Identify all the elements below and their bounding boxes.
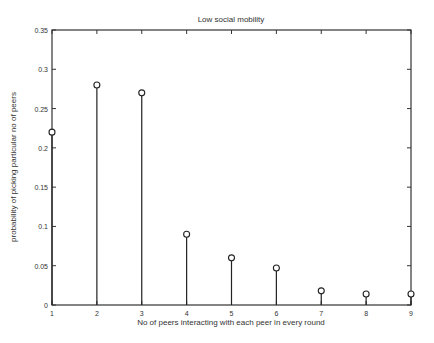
stem-marker xyxy=(94,82,100,88)
stem-marker xyxy=(184,231,190,237)
x-tick-label: 2 xyxy=(95,310,99,317)
x-tick-label: 8 xyxy=(364,310,368,317)
y-tick-label: 0.05 xyxy=(34,263,48,270)
x-tick-label: 4 xyxy=(185,310,189,317)
stem-chart: Low social mobility 00.050.10.150.20.250… xyxy=(0,0,434,343)
stem-marker xyxy=(139,90,145,96)
x-axis-label: No of peers interacting with each peer i… xyxy=(137,318,325,327)
x-tick-label: 5 xyxy=(230,310,234,317)
x-tick-label: 7 xyxy=(319,310,323,317)
y-tick-label: 0.1 xyxy=(38,223,48,230)
stem-marker xyxy=(318,288,324,294)
stem-marker xyxy=(229,255,235,261)
y-tick-label: 0 xyxy=(44,302,48,309)
x-tick-label: 1 xyxy=(50,310,54,317)
x-tick-label: 6 xyxy=(274,310,278,317)
stem-marker xyxy=(408,291,414,297)
y-tick-label: 0.25 xyxy=(34,106,48,113)
data-stems xyxy=(49,82,414,305)
y-tick-label: 0.15 xyxy=(34,184,48,191)
y-axis-ticks: 00.050.10.150.20.250.30.35 xyxy=(34,27,411,309)
stem-marker xyxy=(273,265,279,271)
y-tick-label: 0.35 xyxy=(34,27,48,34)
y-axis-label: probability of picking particular no of … xyxy=(9,92,18,242)
stem-marker xyxy=(363,291,369,297)
stem-marker xyxy=(49,129,55,135)
chart-title: Low social mobility xyxy=(198,15,265,24)
y-tick-label: 0.3 xyxy=(38,66,48,73)
y-tick-label: 0.2 xyxy=(38,145,48,152)
x-tick-label: 3 xyxy=(140,310,144,317)
x-tick-label: 9 xyxy=(409,310,413,317)
